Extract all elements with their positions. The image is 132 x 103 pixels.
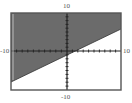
x-min-label: -10 <box>0 48 9 55</box>
y-max-label: 10 <box>63 3 70 10</box>
y-min-label: -10 <box>61 94 70 101</box>
x-max-label: 10 <box>123 48 130 55</box>
inequality-graph <box>0 0 132 103</box>
